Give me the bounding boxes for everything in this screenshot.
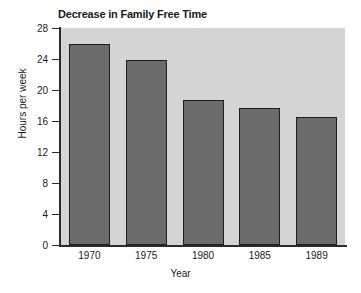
y-axis-tick [52, 245, 60, 246]
bar [239, 108, 280, 245]
bar [69, 44, 110, 246]
y-axis-tick [52, 214, 60, 215]
y-axis-tick [52, 152, 60, 153]
x-axis-title: Year [0, 268, 361, 279]
x-axis-line [59, 245, 347, 247]
bar [126, 60, 167, 245]
x-axis-tick-label: 1989 [287, 250, 347, 261]
y-axis-title: Hours per week [17, 44, 28, 164]
y-axis-tick [52, 59, 60, 60]
x-axis-tick-label: 1975 [116, 250, 176, 261]
bar [296, 117, 337, 245]
x-axis-tick-label: 1980 [173, 250, 233, 261]
y-axis-tick [52, 90, 60, 91]
y-axis-tick [52, 28, 60, 29]
y-axis-tick-label: 4 [18, 209, 48, 220]
y-axis-tick-label: 0 [18, 240, 48, 251]
y-axis-tick [52, 183, 60, 184]
bar [183, 100, 224, 245]
y-axis-tick [52, 121, 60, 122]
x-axis-tick-label: 1985 [230, 250, 290, 261]
x-axis-tick-label: 1970 [59, 250, 119, 261]
y-axis-tick-label: 28 [18, 23, 48, 34]
chart-title: Decrease in Family Free Time [58, 8, 338, 20]
bar-chart-figure: Decrease in Family Free Time 04812162024… [0, 0, 361, 293]
y-axis-tick-label: 8 [18, 178, 48, 189]
